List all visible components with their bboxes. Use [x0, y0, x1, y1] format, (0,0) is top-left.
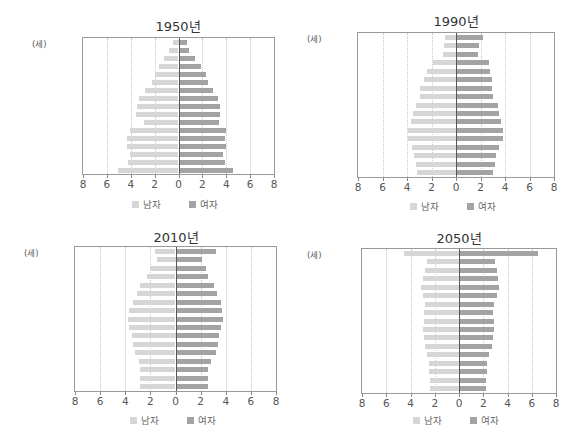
x-tick-label: 4	[127, 178, 134, 190]
bar-male	[430, 386, 459, 391]
legend-item-female: 여자	[467, 199, 496, 213]
bar-male	[424, 335, 459, 340]
bar-male	[424, 77, 456, 82]
bar-female	[179, 56, 196, 61]
bar-male	[420, 86, 456, 91]
gridline	[226, 247, 227, 391]
bar-male	[129, 308, 175, 313]
gridline	[386, 249, 387, 393]
bar-female	[179, 96, 218, 101]
bar-male	[127, 136, 178, 141]
bar-male	[411, 119, 456, 124]
x-tick-label: 2	[428, 181, 435, 193]
chart-title: 1990년	[426, 11, 486, 30]
bar-male	[128, 317, 176, 322]
x-tick-label: 8	[551, 181, 558, 193]
x-tick-label: 6	[383, 397, 390, 409]
bar-male	[155, 249, 175, 254]
bar-male	[152, 80, 178, 85]
bar-male	[430, 378, 459, 383]
legend-swatch-female	[189, 201, 196, 208]
bar-male	[408, 128, 456, 133]
bar-male	[423, 327, 459, 332]
bar-female	[176, 308, 222, 313]
legend-label: 남자	[143, 197, 161, 211]
bar-female	[456, 86, 492, 91]
zero-axis	[179, 38, 180, 174]
bar-female	[176, 333, 220, 338]
bar-female	[179, 152, 223, 157]
bar-male	[427, 259, 459, 264]
x-tick-label: 6	[379, 181, 386, 193]
bar-female	[456, 52, 478, 57]
bar-male	[423, 276, 459, 281]
bar-male	[423, 293, 459, 298]
bar-female	[179, 168, 234, 173]
bar-male	[140, 376, 175, 381]
x-tick-label: 6	[97, 395, 104, 407]
bar-male	[157, 257, 176, 262]
x-tick-label: 4	[404, 181, 411, 193]
bar-male	[159, 64, 178, 69]
bar-male	[421, 285, 459, 290]
bar-male	[413, 111, 456, 116]
bar-female	[176, 384, 209, 389]
bar-female	[176, 257, 202, 262]
bar-male	[445, 35, 456, 40]
x-tick-label: 2	[480, 397, 487, 409]
bar-male	[164, 56, 178, 61]
bar-female	[179, 64, 202, 69]
legend-swatch-male	[410, 203, 417, 210]
x-tick-label: 8	[553, 397, 560, 409]
bar-female	[179, 112, 221, 117]
unit-label: (세)	[307, 32, 322, 44]
bar-female	[456, 162, 495, 167]
x-tick-label: 4	[502, 181, 509, 193]
bar-female	[179, 144, 227, 149]
legend: 남자여자	[132, 197, 218, 211]
x-tick-label: 8	[271, 178, 278, 190]
bar-male	[139, 96, 178, 101]
zero-axis	[176, 247, 177, 391]
bar-female	[176, 350, 216, 355]
bar-male	[427, 69, 456, 74]
zero-axis	[456, 33, 457, 177]
bar-female	[176, 342, 219, 347]
plot-area	[357, 32, 555, 178]
legend-item-female: 여자	[187, 413, 216, 427]
bar-female	[176, 325, 221, 330]
gridline	[530, 33, 531, 177]
bar-female	[456, 103, 498, 108]
legend-item-male: 남자	[132, 197, 161, 211]
gridline	[411, 249, 412, 393]
bar-female	[179, 88, 214, 93]
x-tick-label: 2	[431, 397, 438, 409]
bar-male	[139, 359, 175, 364]
bar-female	[179, 120, 220, 125]
x-tick-label: 2	[147, 395, 154, 407]
bar-male	[144, 120, 179, 125]
bar-male	[140, 367, 175, 372]
legend-swatch-female	[187, 417, 194, 424]
x-tick-label: 8	[355, 181, 362, 193]
bar-male	[147, 274, 176, 279]
bar-male	[130, 128, 179, 133]
bar-male	[425, 344, 459, 349]
bar-male	[444, 43, 456, 48]
bar-female	[456, 136, 503, 141]
bar-male	[118, 168, 179, 173]
legend-label: 남자	[424, 413, 442, 427]
bar-female	[179, 80, 209, 85]
legend-swatch-female	[467, 203, 474, 210]
bar-male	[420, 94, 456, 99]
gridline	[125, 247, 126, 391]
bar-female	[456, 60, 489, 65]
chart-title: 2050년	[429, 228, 489, 247]
chart-title: 2010년	[146, 227, 206, 246]
bar-male	[135, 350, 175, 355]
bar-male	[150, 266, 175, 271]
legend-item-female: 여자	[189, 197, 218, 211]
bar-female	[179, 40, 187, 45]
x-tick-label: 8	[359, 397, 366, 409]
bar-female	[456, 145, 499, 150]
